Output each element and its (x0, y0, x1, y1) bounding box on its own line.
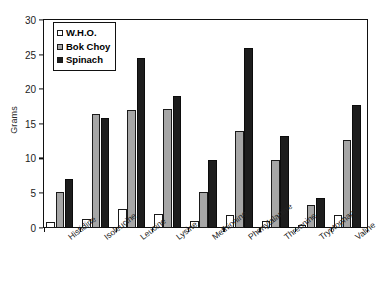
bar-group (116, 20, 152, 228)
legend-item-bok-choy[interactable]: Bok Choy (57, 40, 110, 53)
bar-group (259, 20, 295, 228)
bar-group (188, 20, 224, 228)
bar-group (152, 20, 188, 228)
x-tick-label: Valine (353, 234, 359, 242)
bar-spinach-tryptophan[interactable] (316, 198, 325, 228)
bar-group (223, 20, 259, 228)
bar-spinach-lysine[interactable] (173, 96, 182, 227)
x-tick-label: Lysine (174, 234, 180, 242)
bar-bok-choy-lysine[interactable] (163, 109, 172, 228)
legend-item-spinach[interactable]: Spinach (57, 54, 110, 67)
x-tick-label: Threonine (282, 234, 288, 242)
x-tick-label: Histidine (66, 234, 72, 242)
bar-spinach-histidine[interactable] (65, 179, 74, 227)
legend-swatch-who-icon (57, 30, 63, 36)
x-tick-label: Leucine (138, 234, 144, 242)
y-tick-label: 30 (25, 15, 36, 26)
legend-label-bok-choy: Bok Choy (66, 42, 110, 52)
y-axis-ticks: 051015202530 (0, 19, 43, 228)
bar-spinach-methionine[interactable] (208, 160, 217, 227)
y-tick-label: 20 (25, 84, 36, 95)
bar-group (295, 20, 331, 228)
y-tick-label: 25 (25, 49, 36, 60)
y-tick-label: 15 (25, 118, 36, 129)
x-tick-label: Isoleucine (102, 234, 108, 242)
x-tick-label: Phenylalanine (246, 234, 252, 242)
bar-spinach-leucine[interactable] (137, 58, 146, 227)
y-tick-label: 10 (25, 153, 36, 164)
legend-swatch-spinach-icon (57, 57, 63, 63)
x-tick-label: Tryptophan (317, 234, 323, 242)
bar-bok-choy-histidine[interactable] (56, 192, 65, 227)
bar-chart: Grams 051015202530 HistidineIsoleucineLe… (0, 0, 380, 282)
legend-swatch-bok-choy-icon (57, 44, 63, 50)
x-axis-labels: HistidineIsoleucineLeucineLysineMethioni… (0, 228, 380, 282)
y-tick-label: 5 (30, 187, 36, 198)
legend: W.H.O. Bok Choy Spinach (53, 22, 116, 71)
bar-bok-choy-isoleucine[interactable] (92, 114, 101, 227)
legend-label-spinach: Spinach (66, 55, 103, 65)
x-tick-label: Methionine (210, 234, 216, 242)
legend-label-who: W.H.O. (66, 28, 97, 38)
bar-group (331, 20, 367, 228)
bar-bok-choy-methionine[interactable] (199, 192, 208, 227)
bar-spinach-valine[interactable] (352, 105, 361, 227)
bar-w-h-o-histidine[interactable] (46, 222, 55, 228)
bar-spinach-phenylalanine[interactable] (244, 48, 253, 228)
legend-item-who[interactable]: W.H.O. (57, 27, 110, 40)
bar-spinach-isoleucine[interactable] (101, 118, 110, 228)
